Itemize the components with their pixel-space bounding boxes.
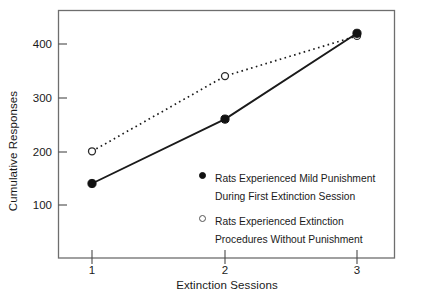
data-point-open-1 — [89, 148, 96, 155]
chart-figure: 400 300 200 100 1 2 3 Cumulative Respons… — [0, 0, 434, 302]
x-tick-label-1: 1 — [82, 264, 102, 276]
legend-entry-filled-circle: Rats Experienced Mild Punishment During … — [198, 168, 398, 204]
x-axis-title: Extinction Sessions — [58, 279, 396, 291]
data-point-filled-1 — [88, 179, 96, 187]
open-circle-icon — [199, 215, 206, 222]
legend-label-open-circle: Rats Experienced Extinction Procedures W… — [215, 216, 363, 245]
plot-area — [0, 0, 434, 302]
data-point-filled-3 — [353, 29, 361, 37]
x-tick-label-3: 3 — [347, 264, 367, 276]
x-tick-label-2: 2 — [215, 264, 235, 276]
y-axis-title: Cumulative Responses — [0, 0, 26, 302]
data-point-filled-2 — [221, 115, 229, 123]
filled-circle-icon — [199, 172, 206, 179]
legend-entry-open-circle: Rats Experienced Extinction Procedures W… — [198, 211, 398, 247]
chart-legend: Rats Experienced Mild Punishment During … — [198, 168, 398, 254]
legend-label-filled-circle: Rats Experienced Mild Punishment During … — [215, 173, 375, 202]
data-point-open-2 — [222, 73, 229, 80]
